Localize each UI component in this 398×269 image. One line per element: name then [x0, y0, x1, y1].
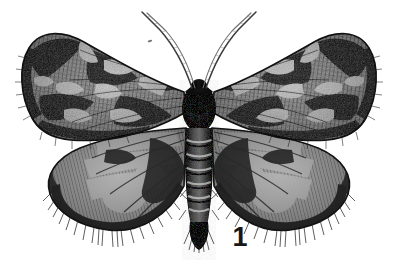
- figure-number-text: 1: [232, 224, 247, 251]
- figure-number-label: 1: [0, 224, 398, 251]
- plate-figure: 1: [0, 0, 398, 269]
